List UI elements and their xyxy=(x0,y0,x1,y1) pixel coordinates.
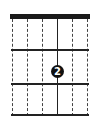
nut xyxy=(10,14,90,19)
string-6 xyxy=(87,19,88,116)
fret-line-1 xyxy=(11,49,89,51)
string-1 xyxy=(12,19,13,116)
fret-line-2 xyxy=(11,83,89,85)
fret-line-3 xyxy=(11,114,89,116)
finger-dot: 2 xyxy=(51,65,64,78)
string-5 xyxy=(72,19,73,116)
string-3 xyxy=(42,19,43,116)
string-2 xyxy=(27,19,28,116)
chord-diagram: 2 xyxy=(0,0,93,123)
